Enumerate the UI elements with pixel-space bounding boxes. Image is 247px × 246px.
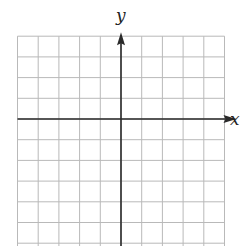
coordinate-plane: x y [0,0,247,246]
x-axis-label: x [230,109,240,129]
y-axis-label: y [115,5,126,25]
